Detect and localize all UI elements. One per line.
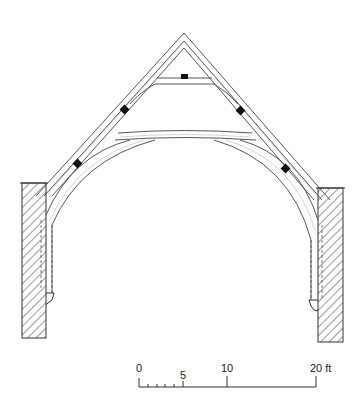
scale-label-0: 0 <box>136 362 142 374</box>
left-wall <box>20 183 54 338</box>
right-rafter <box>184 33 330 200</box>
ridge-purlin <box>181 74 188 79</box>
scale-bar <box>139 376 316 387</box>
truss-drawing: 0 5 10 20 ft <box>0 0 364 418</box>
right-wall <box>309 188 345 342</box>
purlin-blocks <box>73 74 291 173</box>
left-rafter <box>36 33 184 196</box>
arch-braces <box>46 140 318 300</box>
left-corbel <box>46 293 54 305</box>
collar-beam <box>115 131 256 141</box>
scale-label-5: 5 <box>180 369 186 381</box>
scale-label-20: 20 ft <box>310 362 331 374</box>
right-corbel <box>309 300 318 311</box>
scale-label-10: 10 <box>221 362 233 374</box>
